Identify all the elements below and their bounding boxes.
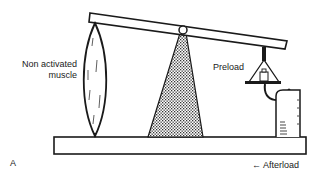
fulcrum-stand bbox=[148, 33, 203, 137]
afterload-block bbox=[276, 90, 300, 137]
lever-apparatus-diagram bbox=[0, 0, 317, 186]
muscle-label-line1: Non activated bbox=[22, 59, 77, 70]
muscle-label-line2: muscle bbox=[22, 70, 77, 81]
fulcrum-pivot-icon bbox=[179, 26, 187, 34]
preload-label: Preload bbox=[213, 62, 244, 73]
muscle bbox=[84, 23, 107, 137]
panel-letter: A bbox=[10, 158, 16, 169]
muscle-label: Non activated muscle bbox=[22, 59, 77, 81]
afterload-label: ← Afterload bbox=[252, 160, 299, 171]
base-platform bbox=[54, 137, 306, 154]
